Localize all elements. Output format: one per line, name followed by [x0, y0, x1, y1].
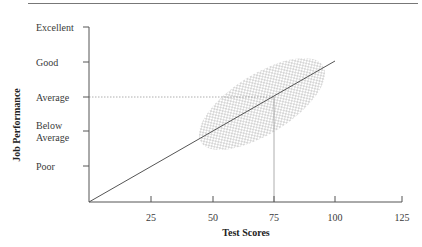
y-tick-label-excellent: Excellent — [36, 22, 74, 33]
x-tick-label-125: 125 — [395, 212, 410, 223]
x-ticks — [151, 196, 402, 202]
x-tick-label-25: 25 — [146, 212, 156, 223]
regression-line — [89, 61, 335, 202]
y-axis-title: Job Performance — [11, 88, 22, 162]
x-axis-title: Test Scores — [222, 227, 270, 238]
x-tick-label-50: 50 — [208, 212, 218, 223]
y-tick-label-good: Good — [36, 57, 58, 68]
x-tick-label-100: 100 — [328, 212, 343, 223]
y-ticks — [83, 27, 89, 166]
chart: Excellent Good Average Below Average Poo… — [0, 0, 422, 247]
x-tick-label-75: 75 — [269, 212, 279, 223]
y-tick-label-below-average: Average — [36, 132, 70, 143]
y-tick-label-poor: Poor — [36, 161, 56, 172]
data-cloud — [185, 40, 339, 167]
y-tick-label-below: Below — [36, 120, 63, 131]
y-tick-label-average: Average — [36, 92, 70, 103]
